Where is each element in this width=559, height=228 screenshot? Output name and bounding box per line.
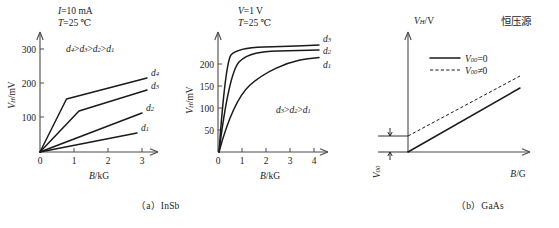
chart-a-label-d1: d1 [141, 123, 149, 133]
chart-c-source-label: 恒压源 [501, 15, 532, 27]
chart-b-ytick-150: 150 [200, 82, 215, 92]
chart-c-yaxis-label: VH/V [414, 16, 434, 26]
chart-a-ytick-100: 100 [22, 113, 37, 123]
chart-a-inequality: d4>d3>d2>d1 [66, 44, 114, 54]
caption-insb: （a）InSb [136, 198, 180, 212]
chart-a-ytick-200: 200 [22, 79, 37, 89]
chart-a-label-d4: d4 [151, 68, 160, 78]
chart-c-legend: V00=0 V00≠0 [430, 54, 488, 76]
chart-a-xtick-3: 3 [140, 156, 145, 166]
chart-b-ytick-100: 100 [200, 104, 215, 114]
chart-a-xtick-0: 0 [38, 156, 43, 166]
chart-a-xtick-2: 2 [106, 156, 111, 166]
chart-a-yaxis-label: VH/mV [7, 81, 17, 109]
chart-a-label-d3: d3 [151, 81, 160, 91]
chart-b-label-d2: d2 [323, 46, 332, 56]
chart-b-param-voltage: V=1 V [238, 6, 263, 16]
chart-b-curve-d3 [219, 45, 319, 152]
chart-a-param-temperature: T=25 ℃ [58, 18, 92, 28]
chart-a-svg: 100 200 300 0 1 2 3 B/kG VH/mV I=10 mA T… [0, 0, 185, 195]
chart-b-xtick-2: 2 [264, 156, 269, 166]
chart-a-xtick-1: 1 [72, 156, 77, 166]
chart-a-y-ticks [40, 49, 44, 117]
chart-a-param-current: I=10 mA [57, 6, 93, 16]
chart-b-ytick-50: 50 [205, 126, 215, 136]
caption-gaas: （b）GaAs [456, 198, 504, 212]
chart-panel-insb-saturation: 50 100 150 200 0 1 2 3 4 B/kG VH/mV V=1 … [178, 0, 353, 195]
chart-b-param-temperature: T=25 ℃ [238, 18, 272, 28]
chart-c-offset-indicator [378, 128, 408, 160]
chart-panel-gaas: VH/V B/G 恒压源 V00=0 V00≠0 V00 [368, 0, 559, 195]
chart-c-legend-item-zero: V00=0 [465, 54, 488, 64]
chart-a-ytick-300: 300 [22, 45, 37, 55]
chart-b-curve-d2 [219, 50, 319, 152]
chart-a-label-d2: d2 [146, 103, 155, 113]
chart-a-x-ticks [74, 148, 142, 152]
chart-b-xtick-0: 0 [216, 156, 221, 166]
chart-c-svg: VH/V B/G 恒压源 V00=0 V00≠0 V00 [368, 0, 559, 195]
chart-b-xtick-4: 4 [312, 156, 317, 166]
chart-b-svg: 50 100 150 200 0 1 2 3 4 B/kG VH/mV V=1 … [178, 0, 353, 195]
chart-c-offset-label: V00 [372, 165, 382, 178]
chart-b-xtick-3: 3 [288, 156, 293, 166]
chart-c-curve-v0-zero [408, 88, 520, 152]
chart-panel-insb-linear: 100 200 300 0 1 2 3 B/kG VH/mV I=10 mA T… [0, 0, 185, 195]
chart-c-curve-v0-nonzero [408, 76, 520, 136]
figure-root: 100 200 300 0 1 2 3 B/kG VH/mV I=10 mA T… [0, 0, 559, 228]
chart-a-curve-d2 [40, 113, 142, 152]
chart-b-label-d3: d3 [323, 34, 332, 44]
chart-b-label-d1: d1 [323, 60, 331, 70]
chart-a-xaxis-label: B/kG [89, 171, 109, 181]
chart-b-xaxis-label: B/kG [260, 171, 280, 181]
chart-b-x-ticks [242, 148, 314, 152]
chart-b-xtick-1: 1 [240, 156, 245, 166]
chart-c-xaxis-label: B/G [510, 169, 525, 179]
chart-c-legend-item-nonzero: V00≠0 [465, 66, 488, 76]
chart-b-ytick-200: 200 [200, 60, 215, 70]
chart-b-yaxis-label: VH/mV [185, 86, 195, 114]
chart-b-inequality: d3>d2>d1 [276, 105, 311, 115]
